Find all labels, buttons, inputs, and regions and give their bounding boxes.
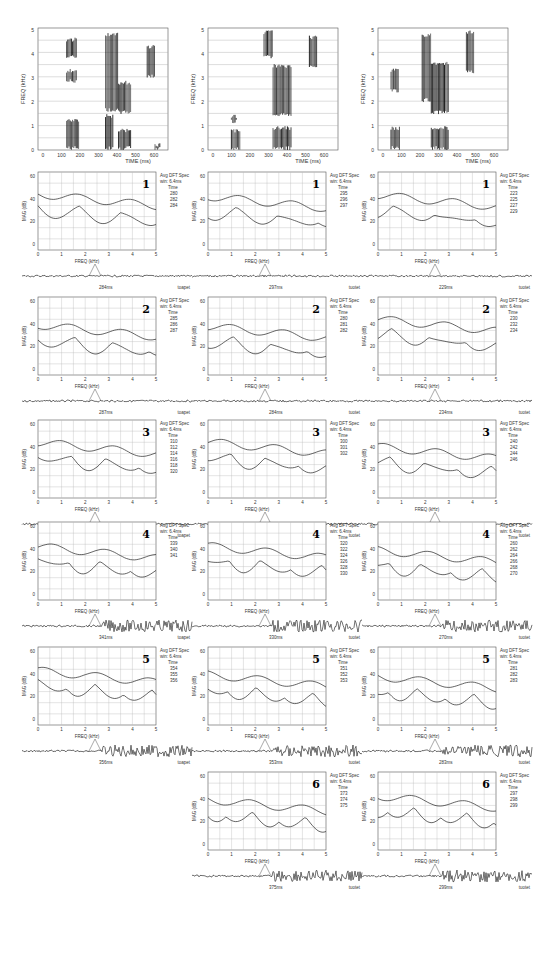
svg-text:60: 60 bbox=[200, 174, 206, 179]
svg-text:win: 6.4ms: win: 6.4ms bbox=[500, 779, 522, 784]
svg-text:284: 284 bbox=[170, 203, 178, 208]
svg-text:Avg DFT Spec: Avg DFT Spec bbox=[330, 648, 360, 653]
svg-text:285: 285 bbox=[170, 316, 178, 321]
svg-text:6: 6 bbox=[482, 778, 490, 791]
svg-text:60: 60 bbox=[30, 422, 36, 427]
svg-text:0: 0 bbox=[377, 852, 380, 857]
svg-text:FREQ (kHz): FREQ (kHz) bbox=[245, 259, 270, 264]
svg-text:2: 2 bbox=[424, 852, 427, 857]
svg-text:283ms: 283ms bbox=[439, 760, 453, 765]
svg-text:373: 373 bbox=[340, 791, 348, 796]
svg-text:0: 0 bbox=[372, 717, 375, 722]
svg-text:win: 6.4ms: win: 6.4ms bbox=[500, 179, 522, 184]
svg-text:20: 20 bbox=[370, 219, 376, 224]
svg-text:5: 5 bbox=[325, 500, 328, 505]
svg-text:tuotet: tuotet bbox=[349, 760, 361, 765]
svg-text:5: 5 bbox=[142, 653, 150, 666]
svg-text:223: 223 bbox=[510, 191, 518, 196]
svg-text:1: 1 bbox=[482, 178, 490, 191]
svg-text:60: 60 bbox=[30, 299, 36, 304]
svg-text:2: 2 bbox=[371, 99, 374, 105]
svg-text:MAG (dB): MAG (dB) bbox=[192, 801, 197, 822]
svg-text:2: 2 bbox=[84, 377, 87, 382]
svg-text:4: 4 bbox=[371, 51, 374, 57]
svg-text:MAG (dB): MAG (dB) bbox=[192, 201, 197, 222]
svg-text:1: 1 bbox=[60, 500, 63, 505]
svg-text:2: 2 bbox=[254, 602, 257, 607]
svg-text:400: 400 bbox=[113, 152, 122, 158]
svg-text:FREQ (kHz): FREQ (kHz) bbox=[75, 609, 100, 614]
svg-text:toapet: toapet bbox=[177, 760, 190, 765]
svg-text:20: 20 bbox=[30, 694, 36, 699]
svg-text:297ms: 297ms bbox=[269, 285, 283, 290]
svg-text:60: 60 bbox=[370, 422, 376, 427]
svg-text:4: 4 bbox=[301, 500, 304, 505]
svg-text:MAG (dB): MAG (dB) bbox=[362, 801, 367, 822]
svg-text:2: 2 bbox=[254, 500, 257, 505]
svg-text:5: 5 bbox=[155, 602, 158, 607]
svg-text:262: 262 bbox=[510, 547, 518, 552]
svg-text:20: 20 bbox=[30, 344, 36, 349]
svg-text:356ms: 356ms bbox=[99, 760, 113, 765]
svg-text:60: 60 bbox=[30, 174, 36, 179]
svg-text:Time: Time bbox=[508, 535, 518, 540]
svg-text:1: 1 bbox=[230, 500, 233, 505]
svg-text:298: 298 bbox=[510, 797, 518, 802]
svg-text:260: 260 bbox=[510, 541, 518, 546]
svg-text:1: 1 bbox=[60, 377, 63, 382]
svg-text:0: 0 bbox=[32, 717, 35, 722]
svg-text:0: 0 bbox=[202, 242, 205, 247]
svg-text:400: 400 bbox=[283, 152, 292, 158]
svg-text:20: 20 bbox=[30, 569, 36, 574]
svg-text:0: 0 bbox=[207, 852, 210, 857]
svg-text:0: 0 bbox=[377, 377, 380, 382]
svg-text:toapet: toapet bbox=[177, 285, 190, 290]
svg-text:300: 300 bbox=[340, 439, 348, 444]
svg-text:Avg DFT Spec: Avg DFT Spec bbox=[330, 421, 360, 426]
svg-text:341ms: 341ms bbox=[99, 635, 113, 640]
svg-text:2: 2 bbox=[424, 377, 427, 382]
svg-text:2: 2 bbox=[312, 303, 320, 316]
svg-text:1: 1 bbox=[142, 178, 150, 191]
svg-text:20: 20 bbox=[200, 344, 206, 349]
svg-text:win: 6.4ms: win: 6.4ms bbox=[500, 529, 522, 534]
svg-text:5: 5 bbox=[325, 252, 328, 257]
svg-text:20: 20 bbox=[30, 467, 36, 472]
svg-text:3: 3 bbox=[108, 377, 111, 382]
svg-text:5: 5 bbox=[325, 852, 328, 857]
svg-text:Avg DFT Spec: Avg DFT Spec bbox=[160, 298, 190, 303]
svg-text:229ms: 229ms bbox=[439, 285, 453, 290]
svg-text:240: 240 bbox=[510, 439, 518, 444]
svg-text:toapet: toapet bbox=[177, 410, 190, 415]
svg-text:3: 3 bbox=[278, 727, 281, 732]
svg-text:Avg DFT Spec: Avg DFT Spec bbox=[500, 421, 530, 426]
svg-text:330ms: 330ms bbox=[269, 635, 283, 640]
svg-text:0: 0 bbox=[382, 152, 385, 158]
svg-text:60: 60 bbox=[30, 649, 36, 654]
svg-text:win: 6.4ms: win: 6.4ms bbox=[330, 179, 352, 184]
svg-text:330: 330 bbox=[340, 571, 348, 576]
svg-text:1: 1 bbox=[400, 500, 403, 505]
svg-text:FREQ (kHz): FREQ (kHz) bbox=[245, 859, 270, 864]
svg-text:2: 2 bbox=[254, 377, 257, 382]
svg-text:TIME (ms): TIME (ms) bbox=[465, 158, 491, 164]
svg-text:60: 60 bbox=[200, 524, 206, 529]
svg-text:297: 297 bbox=[340, 203, 348, 208]
svg-text:40: 40 bbox=[370, 197, 376, 202]
svg-text:400: 400 bbox=[453, 152, 462, 158]
svg-text:40: 40 bbox=[370, 547, 376, 552]
svg-text:2: 2 bbox=[424, 602, 427, 607]
svg-text:3: 3 bbox=[278, 602, 281, 607]
svg-text:0: 0 bbox=[372, 592, 375, 597]
svg-text:Time: Time bbox=[168, 660, 178, 665]
svg-text:40: 40 bbox=[30, 672, 36, 677]
svg-text:MAG (dB): MAG (dB) bbox=[22, 676, 27, 697]
svg-text:322: 322 bbox=[340, 547, 348, 552]
svg-text:5: 5 bbox=[325, 602, 328, 607]
svg-text:Time: Time bbox=[338, 433, 348, 438]
svg-text:60: 60 bbox=[370, 774, 376, 779]
svg-text:234: 234 bbox=[510, 328, 518, 333]
svg-text:5: 5 bbox=[325, 727, 328, 732]
svg-text:1: 1 bbox=[400, 602, 403, 607]
svg-text:win: 6.4ms: win: 6.4ms bbox=[500, 427, 522, 432]
